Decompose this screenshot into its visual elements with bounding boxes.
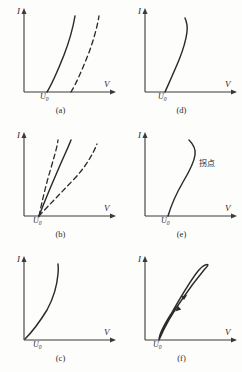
panel-caption-c: (c) <box>0 353 121 363</box>
curve-a-solid <box>47 16 75 92</box>
threshold-label-d: U0 <box>158 93 167 101</box>
threshold-label-c: U0 <box>33 341 42 349</box>
axes-a <box>22 8 117 95</box>
panel-caption-e: (e) <box>121 229 242 239</box>
axes-d <box>143 8 238 95</box>
threshold-label-a: U0 <box>40 93 49 101</box>
panel-caption-f: (f) <box>121 353 242 363</box>
y-axis-label-e: I <box>138 131 141 140</box>
curve-e-s-shape <box>168 140 195 216</box>
y-axis-label-c: I <box>17 255 20 264</box>
inflection-point-annotation: 拐点 <box>199 157 215 168</box>
x-axis-label-c: V <box>104 328 110 337</box>
y-axis-label-f: I <box>138 255 141 264</box>
curve-c-solid <box>25 264 58 339</box>
panel-c: I V U0 (c) <box>0 248 121 372</box>
x-axis-label-e: V <box>225 204 231 213</box>
curve-a-dashed <box>71 16 99 92</box>
x-axis-label-f: V <box>225 328 231 337</box>
y-axis-label-a: I <box>17 7 20 16</box>
curve-f-hysteresis-loop <box>159 265 208 341</box>
panel-d: I V U0 (d) <box>121 0 242 124</box>
panel-b: I V U0 (b) <box>0 124 121 248</box>
y-axis-label-d: I <box>138 7 141 16</box>
x-axis-label-b: V <box>104 204 110 213</box>
axes-f <box>143 256 238 343</box>
threshold-label-f: U0 <box>153 341 162 349</box>
panel-caption-a: (a) <box>0 105 121 115</box>
x-axis-label-d: V <box>225 80 231 89</box>
panel-a: I V U0 (a) <box>0 0 121 124</box>
figure-grid: I V U0 (a) I V U0 (d) <box>0 0 242 372</box>
threshold-label-b: U0 <box>33 217 42 225</box>
axes-e <box>143 132 238 219</box>
panel-e: I V U0 拐点 (e) <box>121 124 242 248</box>
y-axis-label-b: I <box>17 131 20 140</box>
threshold-label-e: U0 <box>161 217 170 225</box>
curve-d-solid <box>165 18 187 92</box>
panel-caption-d: (d) <box>121 105 242 115</box>
panel-caption-b: (b) <box>0 229 121 239</box>
curve-b-solid-middle <box>39 140 71 216</box>
x-axis-label-a: V <box>104 80 110 89</box>
axes-c <box>22 256 117 343</box>
panel-f: I V U0 (f) <box>121 248 242 372</box>
